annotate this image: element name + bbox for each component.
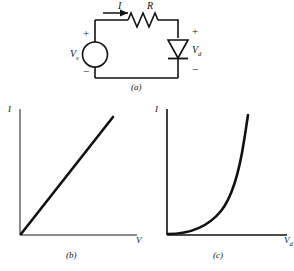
voltage-source-icon xyxy=(83,42,108,67)
source-label-sub: s xyxy=(76,54,79,61)
x-axis-label-c: Vd xyxy=(284,236,293,247)
panel-diode-chart: I Vd (c) xyxy=(147,95,294,271)
diode-iv-svg xyxy=(147,95,294,271)
x-axis-label-c-sub: d xyxy=(290,240,293,247)
caption-b: (b) xyxy=(66,250,77,260)
panel-resistor-chart: I V (b) xyxy=(0,95,147,271)
resistor-zigzag xyxy=(128,13,158,27)
resistor-iv-svg xyxy=(0,95,147,271)
caption-c: (c) xyxy=(213,250,223,260)
caption-a: (a) xyxy=(131,82,142,92)
diode-label-sub: d xyxy=(198,50,201,57)
diode-plus-sign: + xyxy=(192,26,198,37)
current-label: I xyxy=(118,1,121,11)
source-label: Vs xyxy=(70,49,79,62)
circuit-svg xyxy=(0,0,294,95)
data-line-exponential xyxy=(168,115,248,234)
panel-circuit: I R + − Vs + − Vd (a) xyxy=(0,0,294,95)
y-axis-label-c: I xyxy=(155,105,158,114)
diode-minus-sign: − xyxy=(192,64,198,75)
diode-label: Vd xyxy=(192,45,201,58)
figure-root: I R + − Vs + − Vd (a) I V (b) xyxy=(0,0,294,271)
y-axis-label-b: I xyxy=(8,105,11,114)
resistor-label: R xyxy=(147,1,153,11)
data-line-linear xyxy=(21,117,113,234)
wire-top-right xyxy=(158,20,178,38)
diode-triangle-icon xyxy=(168,40,188,58)
source-plus-sign: + xyxy=(83,28,89,39)
x-axis-label-b: V xyxy=(136,236,142,245)
source-minus-sign: − xyxy=(83,66,89,77)
